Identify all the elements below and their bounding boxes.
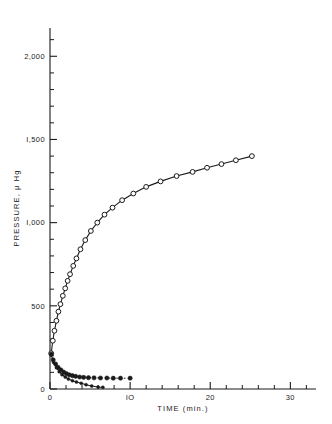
- data-point-rising-pressure: [144, 184, 149, 189]
- axis-lines: [50, 28, 316, 389]
- data-series-layer: [49, 154, 255, 389]
- data-point-rising-pressure: [50, 338, 55, 343]
- data-point-rising-pressure: [65, 278, 70, 283]
- data-point-decaying-pressure: [111, 376, 115, 380]
- data-point-rising-pressure: [174, 174, 179, 179]
- data-point-decaying-pressure: [118, 376, 122, 380]
- data-point-decaying-pressure-lower: [75, 381, 78, 384]
- time-axis-tick-labels: 0IO2030: [48, 393, 295, 402]
- data-point-rising-pressure: [74, 256, 79, 261]
- data-point-rising-pressure: [120, 198, 125, 203]
- data-point-decaying-pressure: [86, 376, 90, 380]
- data-point-rising-pressure: [56, 309, 61, 314]
- data-point-decaying-pressure-lower: [80, 382, 83, 385]
- time-tick-label: 30: [286, 393, 295, 402]
- data-point-rising-pressure: [60, 293, 65, 298]
- data-point-rising-pressure: [71, 263, 76, 268]
- data-point-rising-pressure: [68, 272, 73, 277]
- data-point-rising-pressure: [83, 238, 88, 243]
- data-point-rising-pressure: [131, 191, 136, 196]
- data-point-rising-pressure: [219, 162, 224, 167]
- time-tick-label: 20: [206, 393, 215, 402]
- pressure-tick-label: 0: [40, 385, 45, 394]
- data-point-decaying-pressure: [98, 376, 102, 380]
- data-point-decaying-pressure: [92, 376, 96, 380]
- y-axis-title: PRESSURE, μ Hg: [12, 170, 21, 247]
- data-point-rising-pressure: [63, 286, 68, 291]
- time-tick-label: 0: [48, 393, 53, 402]
- data-point-rising-pressure: [205, 165, 210, 170]
- data-point-decaying-pressure: [74, 374, 78, 378]
- data-point-decaying-pressure-lower: [58, 370, 61, 373]
- data-point-decaying-pressure-lower: [67, 378, 70, 381]
- data-point-decaying-pressure-lower: [101, 386, 104, 389]
- data-point-decaying-pressure: [82, 375, 86, 379]
- data-point-decaying-pressure-lower: [61, 373, 64, 376]
- data-point-decaying-pressure-lower: [50, 353, 53, 356]
- data-point-rising-pressure: [88, 229, 93, 234]
- series-line-rising-pressure: [51, 156, 252, 353]
- data-point-rising-pressure: [158, 179, 163, 184]
- data-point-rising-pressure: [54, 318, 59, 323]
- pressure-tick-label: 500: [31, 302, 45, 311]
- data-point-decaying-pressure-lower: [97, 386, 100, 389]
- figure-container: 0500I,000I,5002,000 0IO2030 TIME (min.) …: [0, 0, 332, 424]
- data-point-rising-pressure: [58, 302, 63, 307]
- data-point-rising-pressure: [110, 205, 115, 210]
- data-point-rising-pressure: [233, 158, 238, 163]
- data-point-decaying-pressure: [78, 375, 82, 379]
- data-point-decaying-pressure-lower: [90, 385, 93, 388]
- data-point-decaying-pressure: [128, 376, 132, 380]
- pressure-tick-label: I,000: [26, 218, 45, 227]
- data-point-rising-pressure: [52, 328, 57, 333]
- pressure-vs-time-chart: 0500I,000I,5002,000 0IO2030 TIME (min.) …: [0, 0, 332, 424]
- data-point-rising-pressure: [250, 154, 255, 159]
- data-point-rising-pressure: [95, 220, 100, 225]
- data-point-decaying-pressure-lower: [52, 361, 55, 364]
- x-axis-title: TIME (min.): [157, 404, 208, 413]
- pressure-tick-label: 2,000: [24, 52, 45, 61]
- data-point-decaying-pressure-lower: [71, 379, 74, 382]
- data-point-decaying-pressure-lower: [85, 383, 88, 386]
- pressure-axis-tick-labels: 0500I,000I,5002,000: [24, 52, 45, 394]
- data-point-rising-pressure: [78, 247, 83, 252]
- time-tick-label: IO: [126, 393, 135, 402]
- data-point-decaying-pressure-lower: [64, 376, 67, 379]
- pressure-tick-label: I,500: [26, 135, 45, 144]
- data-point-rising-pressure: [102, 212, 107, 217]
- data-point-decaying-pressure-lower: [55, 366, 58, 369]
- data-point-rising-pressure: [190, 170, 195, 175]
- data-point-decaying-pressure: [105, 376, 109, 380]
